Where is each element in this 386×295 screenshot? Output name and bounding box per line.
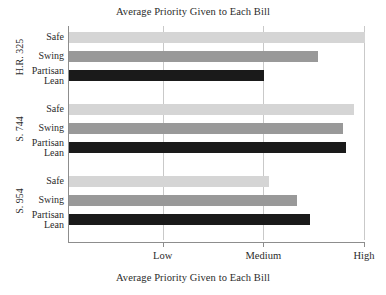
bar <box>69 142 346 153</box>
x-tick-label: Low <box>153 250 172 261</box>
bar <box>69 51 318 62</box>
plot-area <box>68 26 364 240</box>
chart-title: Average Priority Given to Each Bill <box>0 6 386 17</box>
tick-mark-low <box>163 242 164 247</box>
bar <box>69 32 365 43</box>
tick-mark-high <box>364 242 365 247</box>
bar <box>69 70 264 81</box>
group-label: S. 954 <box>14 161 25 241</box>
bar <box>69 195 297 206</box>
bar <box>69 104 354 115</box>
group-label: H.R. 325 <box>14 17 25 97</box>
gridline-high <box>364 26 365 240</box>
tick-mark-medium <box>263 242 264 247</box>
x-axis-line <box>68 242 365 243</box>
x-tick-label: High <box>354 250 375 261</box>
bar <box>69 176 269 187</box>
group-label: S. 744 <box>14 89 25 169</box>
x-tick-label: Medium <box>246 250 282 261</box>
x-axis-title: Average Priority Given to Each Bill <box>0 272 386 283</box>
bar-chart: Average Priority Given to Each Bill Safe… <box>0 0 386 295</box>
bar <box>69 214 310 225</box>
bar <box>69 123 343 134</box>
group-axis-labels: H.R. 325S. 744S. 954 <box>0 26 22 242</box>
